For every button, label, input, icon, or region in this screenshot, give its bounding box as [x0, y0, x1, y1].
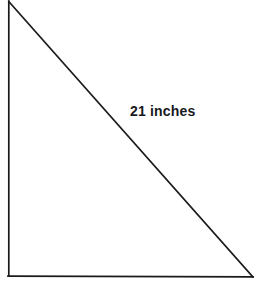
diagram-canvas: 21inches: [0, 0, 260, 287]
hypotenuse-length-value: 21: [130, 103, 146, 119]
horizontal-leg-line: [8, 276, 253, 277]
hypotenuse-length-label: 21inches: [130, 103, 196, 119]
hypotenuse-length-unit: inches: [150, 103, 196, 119]
triangle-figure: [0, 0, 260, 287]
hypotenuse-line: [9, 2, 253, 278]
